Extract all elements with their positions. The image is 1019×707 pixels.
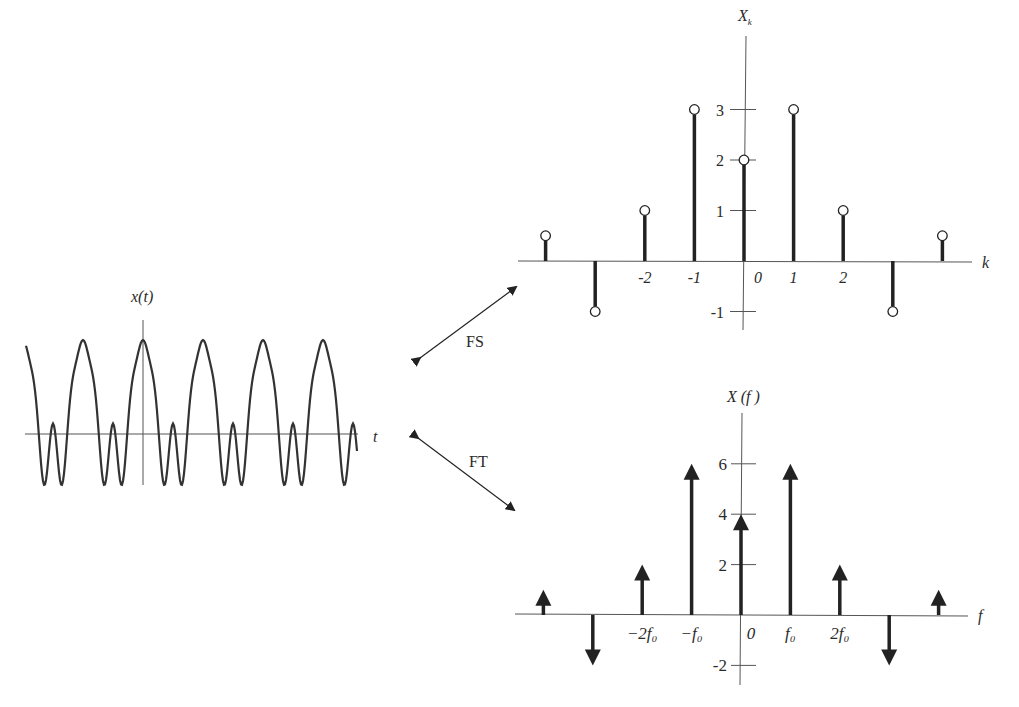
fs-xlabel: k bbox=[982, 254, 990, 271]
ft-xlabel: f bbox=[978, 607, 985, 625]
fs-label: FS bbox=[466, 333, 484, 350]
ft-x-ticks: −2f₀−f₀0f₀2f₀ bbox=[627, 624, 850, 643]
ft-impulse-arrow bbox=[782, 464, 798, 615]
fs-xtick-label: 0 bbox=[754, 269, 762, 286]
stem-marker bbox=[739, 155, 749, 165]
fs-ytick-label: 2 bbox=[716, 152, 724, 169]
fs-xtick-label: -1 bbox=[688, 269, 701, 286]
fs-stem bbox=[590, 261, 600, 316]
ft-xtick-label: 2f₀ bbox=[830, 624, 849, 643]
fs-stem bbox=[838, 206, 848, 261]
ft-ytick-label: 6 bbox=[719, 455, 728, 474]
stem-marker bbox=[838, 206, 848, 216]
ft-double-arrow bbox=[418, 438, 514, 510]
stem-marker bbox=[590, 307, 600, 317]
ft-xtick-label: f₀ bbox=[785, 624, 796, 643]
ft-impulse-arrow bbox=[535, 590, 551, 615]
fourier-series-plot: 321-1 -2-1012 Xk k bbox=[518, 7, 990, 330]
stem-marker bbox=[789, 105, 799, 115]
fs-stem bbox=[739, 155, 749, 261]
fs-stem bbox=[789, 105, 799, 261]
time-ylabel: x(t) bbox=[130, 288, 153, 306]
ft-impulse-arrow bbox=[832, 565, 848, 615]
ft-impulse-arrow bbox=[634, 565, 650, 615]
time-xlabel: t bbox=[373, 428, 378, 445]
fs-ytick-label: 3 bbox=[716, 102, 724, 119]
fs-ytick-label: 1 bbox=[716, 203, 724, 220]
fs-stem bbox=[640, 206, 650, 261]
ft-impulse-arrow bbox=[684, 464, 700, 615]
stem-marker bbox=[888, 307, 898, 317]
ft-ytick-label: 4 bbox=[719, 505, 728, 524]
ft-label: FT bbox=[469, 453, 488, 470]
diagram-canvas: x(t) t FS FT 321-1 -2-1012 Xk k 642-2 −2… bbox=[0, 0, 1019, 707]
ft-ytick-label: -2 bbox=[713, 656, 727, 675]
ft-impulse-arrow bbox=[881, 615, 897, 665]
fs-xtick-label: 2 bbox=[839, 269, 847, 286]
fs-y-ticks: 321-1 bbox=[711, 102, 756, 321]
ft-xtick-label: −2f₀ bbox=[627, 624, 658, 643]
fs-stems bbox=[541, 105, 947, 317]
fs-ylabel: Xk bbox=[737, 7, 753, 27]
stem-marker bbox=[541, 231, 551, 241]
ft-impulse-arrow bbox=[931, 590, 947, 615]
time-domain-plot: x(t) t bbox=[25, 288, 378, 485]
ft-impulse-arrow bbox=[585, 615, 601, 665]
fs-ytick-label: -1 bbox=[711, 304, 724, 321]
fs-stem bbox=[541, 231, 551, 261]
fs-arrow-group: FS bbox=[420, 287, 516, 358]
fs-x-ticks: -2-1012 bbox=[638, 269, 847, 286]
waveform-curve bbox=[26, 340, 357, 485]
stem-marker bbox=[938, 231, 948, 241]
fs-xtick-label: 1 bbox=[790, 269, 798, 286]
fs-stem bbox=[690, 105, 700, 261]
fs-stem bbox=[938, 231, 948, 261]
stem-marker bbox=[690, 105, 700, 115]
k-axis bbox=[518, 261, 972, 262]
ft-ytick-label: 2 bbox=[719, 556, 728, 575]
ft-xtick-label: 0 bbox=[747, 624, 756, 643]
stem-marker bbox=[640, 206, 650, 216]
ft-arrow-group: FT bbox=[418, 438, 514, 510]
fourier-transform-plot: 642-2 −2f₀−f₀0f₀2f₀ X (f ) f bbox=[515, 388, 985, 685]
fs-xtick-label: -2 bbox=[638, 269, 651, 286]
ft-ylabel: X (f ) bbox=[726, 388, 760, 406]
ft-xtick-label: −f₀ bbox=[681, 624, 703, 643]
diagram-svg: x(t) t FS FT 321-1 -2-1012 Xk k 642-2 −2… bbox=[0, 0, 1019, 707]
fs-stem bbox=[888, 261, 898, 316]
